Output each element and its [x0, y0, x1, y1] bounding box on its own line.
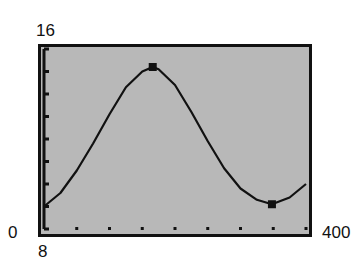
calculator-graph — [0, 0, 360, 264]
